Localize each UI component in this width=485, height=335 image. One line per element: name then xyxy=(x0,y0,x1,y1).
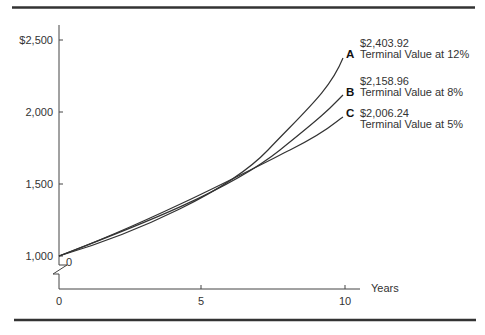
curve-c-5pct xyxy=(59,117,343,256)
y-tick-2000: 2,000 xyxy=(3,106,53,118)
y-tick-1500: 1,500 xyxy=(3,178,53,190)
series-c-text: Terminal Value at 5% xyxy=(360,118,463,130)
series-c-letter: C xyxy=(346,107,354,119)
y-axis xyxy=(53,25,67,289)
series-b-letter: B xyxy=(346,86,354,98)
x-tick-10: 10 xyxy=(339,295,351,307)
x-axis-label: Years xyxy=(371,282,399,294)
x-axis xyxy=(59,285,360,289)
series-a-letter: A xyxy=(346,48,354,60)
origin-label: 0 xyxy=(66,256,72,268)
y-tick-2500: $2,500 xyxy=(3,34,53,46)
x-tick-0: 0 xyxy=(56,295,62,307)
series-b-text: Terminal Value at 8% xyxy=(360,86,463,98)
curve-a-12pct xyxy=(59,58,343,256)
x-tick-5: 5 xyxy=(198,295,204,307)
curve-b-8pct xyxy=(59,95,343,256)
y-tick-1000: 1,000 xyxy=(3,250,53,262)
series-a-text: Terminal Value at 12% xyxy=(360,48,469,60)
